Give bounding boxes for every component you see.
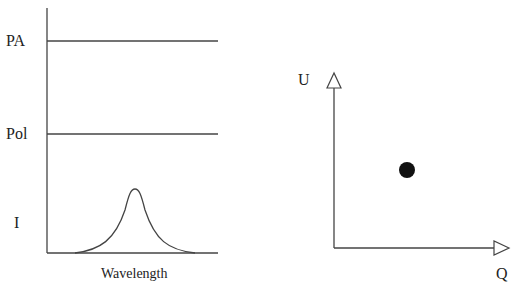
u-label: U: [298, 72, 310, 88]
wavelength-label: Wavelength: [101, 267, 168, 281]
intensity-profile: [75, 189, 195, 253]
u-axis-arrow-icon: [327, 73, 341, 88]
pol-label: Pol: [6, 126, 27, 142]
diagram-canvas: [0, 0, 519, 292]
q-label: Q: [496, 266, 508, 282]
pa-label: PA: [6, 33, 25, 49]
intensity-label: I: [14, 215, 19, 231]
q-axis-arrow-icon: [494, 241, 509, 255]
qu-point: [399, 162, 415, 178]
